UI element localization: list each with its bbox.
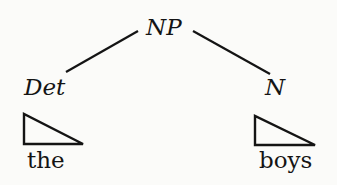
leaf-the: the: [27, 149, 65, 172]
node-n: N: [265, 76, 285, 99]
node-det: Det: [24, 76, 65, 99]
triangle-det: [24, 114, 83, 144]
branch-np-n: [193, 31, 270, 74]
triangle-n: [255, 116, 315, 145]
branch-np-det: [66, 31, 138, 72]
syntax-tree-diagram: NP Det N the boys: [0, 0, 337, 185]
leaf-boys: boys: [259, 149, 312, 172]
node-np: NP: [146, 16, 182, 39]
